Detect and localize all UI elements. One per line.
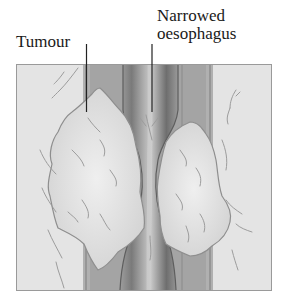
narrowed-oesophagus-label-line1: Narrowed	[157, 7, 225, 24]
narrowed-oesophagus-label-line2: oesophagus	[157, 25, 236, 42]
tumour-label: Tumour	[16, 33, 70, 50]
